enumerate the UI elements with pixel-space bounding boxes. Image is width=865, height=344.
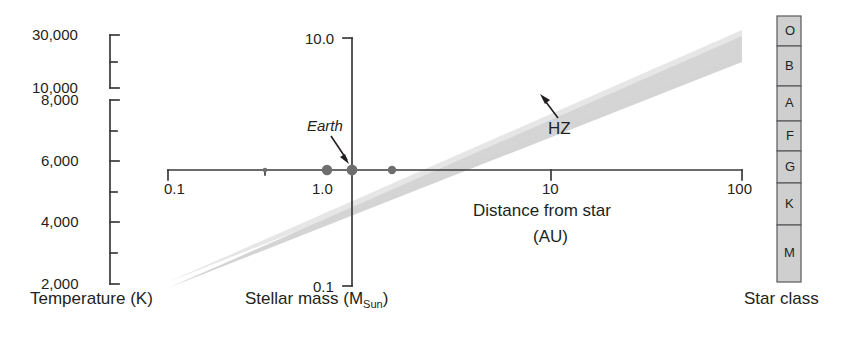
temp-tick-6000: 6,000 xyxy=(41,153,79,168)
star-class-A: A xyxy=(785,96,794,109)
distance-tick-100: 100 xyxy=(727,181,752,196)
marker-medium xyxy=(388,166,396,174)
distance-tick-1-0: 1.0 xyxy=(312,181,333,196)
figure-canvas: 30,000 10,000 8,000 6,000 4,000 2,000 0.… xyxy=(0,0,865,344)
distance-caption-line2: (AU) xyxy=(533,228,568,245)
earth-arrow-icon xyxy=(331,136,349,164)
stellar-mass-caption-tail: ) xyxy=(383,289,389,308)
star-class-F: F xyxy=(786,129,794,142)
star-class-B: B xyxy=(785,59,794,72)
temperature-axis-caption: Temperature (K) xyxy=(30,290,153,307)
temp-tick-8000: 8,000 xyxy=(41,92,79,107)
stellar-mass-caption-sub: Sun xyxy=(363,298,383,310)
temp-tick-30000: 30,000 xyxy=(32,27,78,42)
mass-tick-10: 10.0 xyxy=(305,31,334,46)
star-class-O: O xyxy=(785,24,795,37)
hz-label: HZ xyxy=(548,120,571,137)
marker-earth xyxy=(347,165,358,176)
star-class-caption: Star class xyxy=(744,290,819,307)
temp-tick-4000: 4,000 xyxy=(41,214,79,229)
distance-caption-line1: Distance from star xyxy=(473,202,611,219)
marker-small xyxy=(263,168,268,173)
earth-label: Earth xyxy=(307,118,343,133)
star-class-K: K xyxy=(785,197,794,210)
temperature-axis xyxy=(110,35,119,284)
habitable-zone-band xyxy=(168,30,742,288)
distance-tick-0-1: 0.1 xyxy=(164,181,185,196)
marker-large xyxy=(322,165,332,175)
star-class-M: M xyxy=(784,246,795,259)
hz-arrow-icon xyxy=(540,94,558,118)
stellar-mass-caption: Stellar mass (MSun) xyxy=(245,290,388,310)
star-class-G: G xyxy=(785,160,795,173)
star-class-ladder xyxy=(777,16,801,282)
distance-tick-10: 10 xyxy=(542,181,559,196)
stellar-mass-caption-main: Stellar mass (M xyxy=(245,289,363,308)
